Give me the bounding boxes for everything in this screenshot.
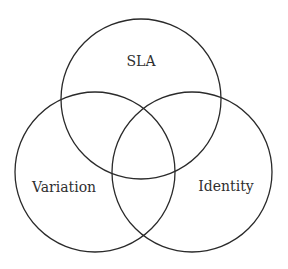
circle-identity [112, 92, 272, 252]
label-identity: Identity [198, 178, 254, 194]
venn-diagram: SLA Variation Identity [0, 0, 288, 269]
circle-variation [15, 92, 175, 252]
label-variation: Variation [31, 179, 96, 195]
circle-sla [61, 19, 221, 179]
label-sla: SLA [127, 53, 157, 69]
